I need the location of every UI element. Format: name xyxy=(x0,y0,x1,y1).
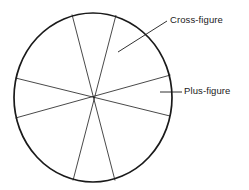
leader-cross-figure xyxy=(118,21,167,52)
main-circle xyxy=(14,13,172,182)
label-plus-figure: Plus-figure xyxy=(184,85,231,96)
chord-horizontal-upper xyxy=(16,78,171,116)
chord-horizontal-lower xyxy=(16,75,171,118)
geometric-figure-diagram: Cross-figure Plus-figure xyxy=(0,0,249,190)
label-cross-figure: Cross-figure xyxy=(170,14,223,25)
